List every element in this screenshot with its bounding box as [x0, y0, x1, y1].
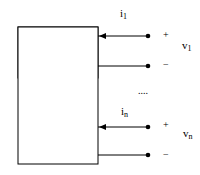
- port-1: [98, 33, 150, 68]
- current-label-in: in: [121, 106, 128, 119]
- terminal-node: [146, 153, 151, 158]
- minus-sign: −: [163, 150, 169, 160]
- current-arrow-icon: [99, 33, 106, 39]
- plus-sign: +: [163, 120, 169, 130]
- minus-sign: −: [163, 60, 169, 70]
- network-block: [18, 27, 98, 164]
- voltage-label-vn: vn: [183, 128, 193, 141]
- current-arrow-icon: [99, 124, 106, 130]
- port-n: [98, 124, 150, 157]
- plus-sign: +: [163, 30, 169, 40]
- terminal-node: [146, 64, 151, 69]
- ellipsis: ....: [138, 86, 148, 96]
- circuit-diagram: [0, 0, 200, 175]
- terminal-node: [146, 34, 151, 39]
- current-label-i1: i1: [120, 8, 127, 21]
- voltage-label-v1: v1: [182, 40, 192, 53]
- terminal-node: [146, 125, 151, 130]
